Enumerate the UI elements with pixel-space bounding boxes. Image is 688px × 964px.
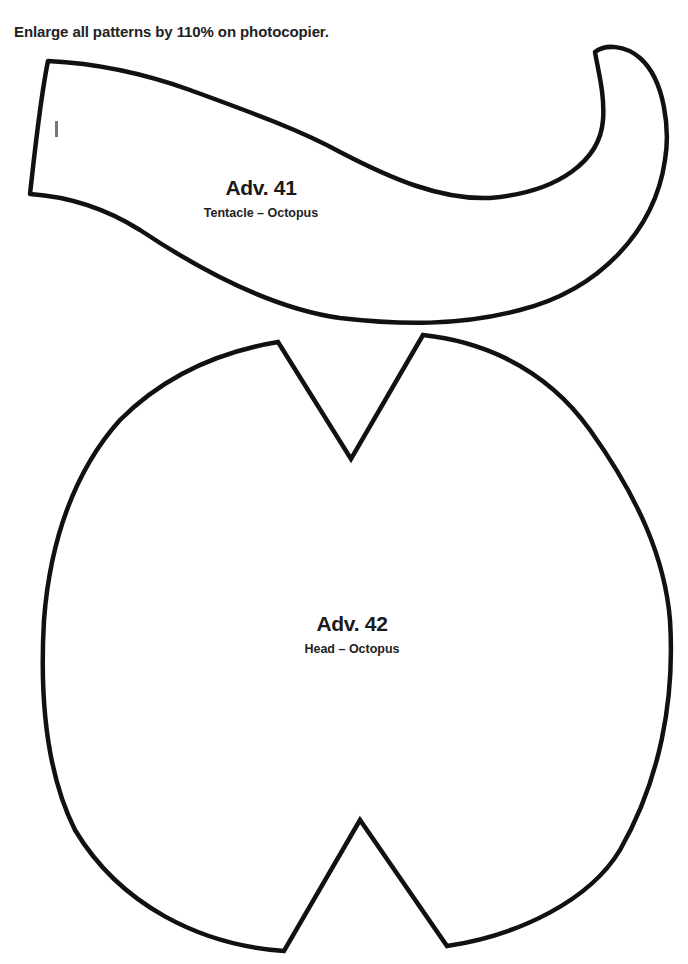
pattern-name: Head – Octopus	[304, 642, 399, 656]
grain-line-mark	[55, 121, 58, 137]
pattern-label-head: Adv. 42 Head – Octopus	[304, 612, 399, 656]
pattern-label-tentacle: Adv. 41 Tentacle – Octopus	[204, 176, 318, 220]
pattern-name: Tentacle – Octopus	[204, 206, 318, 220]
pattern-outlines	[0, 0, 688, 964]
tentacle-outline	[30, 47, 667, 323]
pattern-code: Adv. 42	[304, 612, 399, 636]
pattern-code: Adv. 41	[204, 176, 318, 200]
